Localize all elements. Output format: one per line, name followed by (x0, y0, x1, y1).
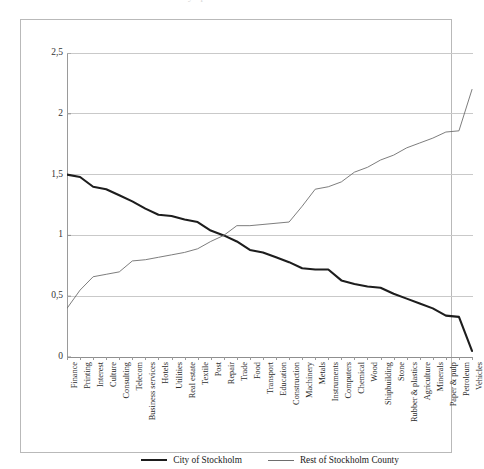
x-axis-category-label: Construction (293, 362, 301, 405)
x-axis-category-text: Telecom (136, 362, 144, 390)
x-axis-category-label: Metals (319, 362, 327, 385)
y-axis-tick-label: 0 (29, 352, 63, 362)
x-axis-tick (341, 357, 342, 360)
x-axis-tick (198, 357, 199, 360)
x-axis-category-label: Trade (241, 362, 249, 381)
x-axis-category-text: Business services (149, 362, 157, 420)
x-axis-category-text: Petroleum (463, 362, 471, 396)
x-axis-category-label: Textile (202, 362, 210, 385)
x-axis-tick (433, 357, 434, 360)
x-axis-category-label: Repair (228, 362, 236, 384)
x-axis-category-label: Petroleum (463, 362, 471, 396)
x-axis-category-text: Food (254, 362, 262, 379)
y-axis-tick-label: 2 (29, 109, 63, 119)
x-axis-category-label: Business services (149, 362, 157, 420)
x-axis-category-text: Utilities (176, 362, 184, 389)
x-axis-tick (224, 357, 225, 360)
x-axis-category-text: Hotels (162, 362, 170, 384)
y-axis-labels: 00,511,522,5 (29, 20, 63, 469)
x-axis-ticks (67, 357, 473, 361)
x-axis-category-text: Vehicles (476, 362, 484, 390)
y-axis-tick-label: 0,5 (29, 291, 63, 301)
x-axis-category-text: Printing (84, 362, 92, 389)
x-axis-category-label: Food (254, 362, 262, 379)
x-axis-category-text: Computers (345, 362, 353, 398)
x-axis-category-label: Chemical (358, 362, 366, 394)
x-axis-category-label: Transport (267, 362, 275, 394)
x-axis-category-label: Interest (97, 362, 105, 387)
x-axis-category-labels: FinancePrintingInterestCultureConsulting… (67, 362, 473, 448)
legend-entry: City of Stockholm (141, 455, 242, 465)
x-axis-tick (420, 357, 421, 360)
x-axis-category-label: Real estate (189, 362, 197, 398)
y-axis-tick-label: 1,5 (29, 170, 63, 180)
x-axis-category-text: Consulting (123, 362, 131, 398)
x-axis-tick (250, 357, 251, 360)
x-axis-category-text: Culture (110, 362, 118, 387)
x-axis-tick (446, 357, 447, 360)
plot-area (67, 53, 473, 357)
x-axis-category-text: Trade (241, 362, 249, 381)
clipped-header-text: Relative industry specialisation (0, 0, 473, 14)
x-axis-tick (211, 357, 212, 360)
x-axis-tick (276, 357, 277, 360)
y-axis-tick-label: 2,5 (29, 48, 63, 58)
x-axis-category-text: Rubber & plastics (411, 362, 419, 422)
x-axis-tick (263, 357, 264, 360)
series-line-city-of-stockholm (67, 175, 472, 351)
x-axis-category-label: Stone (398, 362, 406, 381)
x-axis-category-text: Textile (202, 362, 210, 385)
legend-line-swatch (141, 459, 167, 461)
x-axis-tick (302, 357, 303, 360)
x-axis-category-label: Utilities (176, 362, 184, 389)
legend-label: Rest of Stockholm County (300, 455, 399, 465)
x-axis-tick (237, 357, 238, 360)
x-axis-category-label: Instruments (332, 362, 340, 401)
x-axis-category-label: Minerals (437, 362, 445, 392)
legend-label: City of Stockholm (173, 455, 242, 465)
x-axis-tick (367, 357, 368, 360)
x-axis-tick (80, 357, 81, 360)
x-axis-category-label: Wood (371, 362, 379, 382)
x-axis-category-label: Rubber & plastics (411, 362, 419, 422)
x-axis-category-text: Wood (371, 362, 379, 382)
x-axis-tick (93, 357, 94, 360)
x-axis-tick (381, 357, 382, 360)
x-axis-tick (145, 357, 146, 360)
x-axis-category-text: Real estate (189, 362, 197, 398)
x-axis-tick (407, 357, 408, 360)
x-axis-category-text: Stone (398, 362, 406, 381)
x-axis-tick (315, 357, 316, 360)
x-axis-category-label: Post (215, 362, 223, 376)
x-axis-category-text: Chemical (358, 362, 366, 394)
x-axis-category-text: Construction (293, 362, 301, 405)
line-chart-svg (67, 53, 473, 357)
x-axis-category-label: Hotels (162, 362, 170, 384)
x-axis-tick (119, 357, 120, 360)
x-axis-category-label: Culture (110, 362, 118, 387)
x-axis-category-label: Vehicles (476, 362, 484, 390)
x-axis-category-text: Instruments (332, 362, 340, 401)
x-axis-category-text: Agriculture (424, 362, 432, 400)
x-axis-category-label: Shipbuilding (385, 362, 393, 405)
x-axis-category-label: Computers (345, 362, 353, 398)
x-axis-tick (354, 357, 355, 360)
legend-entry: Rest of Stockholm County (268, 455, 399, 465)
chart-legend: City of StockholmRest of Stockholm Count… (67, 452, 473, 468)
x-axis-category-label: Machinery (306, 362, 314, 398)
legend-line-swatch (268, 460, 294, 461)
x-axis-tick (185, 357, 186, 360)
x-axis-category-text: Repair (228, 362, 236, 384)
x-axis-category-text: Machinery (306, 362, 314, 398)
x-axis-tick (459, 357, 460, 360)
y-axis-tick-label: 1 (29, 230, 63, 240)
x-axis-tick (394, 357, 395, 360)
x-axis-category-label: Education (280, 362, 288, 396)
x-axis-tick (289, 357, 290, 360)
clipped-header-label: Relative industry specialisation (118, 0, 256, 2)
x-axis-category-text: Shipbuilding (385, 362, 393, 405)
x-axis-category-text: Post (215, 362, 223, 376)
x-axis-category-text: Education (280, 362, 288, 396)
x-axis-tick (67, 357, 68, 360)
x-axis-category-text: Metals (319, 362, 327, 385)
